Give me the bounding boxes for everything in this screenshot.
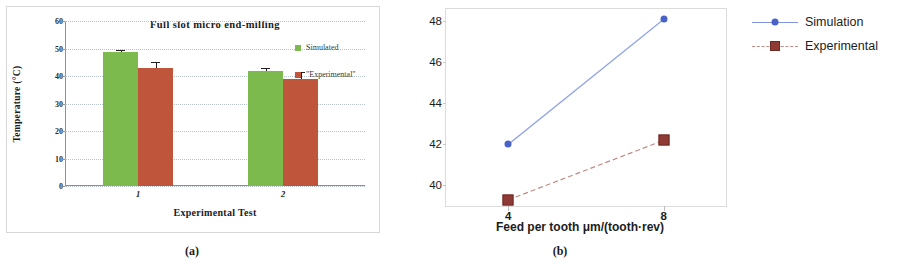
- panel-a-gridline: [65, 186, 365, 187]
- panel-b-data-point: [660, 16, 667, 23]
- panel-a-y-axis-label: Temperature (°C): [12, 44, 22, 164]
- panel-a-x-tick-label: 1: [136, 189, 140, 199]
- panel-b-x-axis-label: Feed per tooth μm/(tooth·rev): [400, 220, 760, 234]
- panel-a-legend-item: "Experimental": [295, 70, 375, 79]
- panel-b-y-tick-label: 48: [429, 15, 442, 27]
- panel-a-x-tick-label: 2: [281, 189, 285, 199]
- panel-a-x-axis-label: Experimental Test: [65, 207, 365, 218]
- panel-a-y-tick-mark: [61, 159, 65, 160]
- panel-a-legend-item: Simulated: [295, 43, 375, 52]
- panel-a-y-tick-mark: [61, 76, 65, 77]
- panel-b-legend-item: Simulation: [752, 10, 901, 34]
- panel-a-error-bar-cap: [151, 62, 160, 63]
- panel-a-error-bar-cap: [261, 68, 270, 69]
- panel-b-legend-label: Simulation: [805, 15, 863, 29]
- panel-b-x-tick-mark: [508, 206, 509, 211]
- panel-a-bar: [138, 68, 173, 186]
- panel-b-y-tick-label: 42: [429, 138, 442, 150]
- panel-b-x-tick-mark: [664, 206, 665, 211]
- panel-b-legend: SimulationExperimental: [752, 10, 901, 58]
- panel-a-y-tick-mark: [61, 131, 65, 132]
- caption-b: (b): [400, 244, 720, 259]
- panel-a-error-bar-cap: [116, 50, 125, 51]
- panel-b-legend-item: Experimental: [752, 34, 901, 58]
- panel-a-legend: Simulated"Experimental": [295, 43, 375, 97]
- panel-a-bar-chart: Full slot micro end-milling Temperature …: [6, 6, 380, 233]
- panel-b-plot-area: 4042444648 48: [445, 8, 727, 207]
- panel-a-legend-label: Simulated: [306, 43, 338, 52]
- panel-b-line-chart: 4042444648 48 Feed per tooth μm/(tooth·r…: [400, 0, 901, 271]
- legend-swatch-icon: [295, 72, 301, 78]
- legend-swatch-icon: [295, 45, 301, 51]
- panel-a-legend-label: "Experimental": [306, 70, 356, 79]
- panel-a-gridline: [65, 21, 365, 22]
- panel-b-series-lines: [446, 9, 726, 206]
- panel-b-data-point: [658, 135, 669, 146]
- panel-b-y-tick-label: 46: [429, 56, 442, 68]
- legend-line-icon: [752, 40, 798, 52]
- panel-b-y-tick-label: 40: [429, 179, 442, 191]
- panel-b-data-point: [503, 194, 514, 205]
- panel-b-legend-label: Experimental: [805, 39, 878, 53]
- panel-a-y-tick-mark: [61, 49, 65, 50]
- panel-a-y-tick-mark: [61, 186, 65, 187]
- caption-a: (a): [0, 244, 384, 259]
- panel-b-y-tick-label: 44: [429, 97, 442, 109]
- panel-a-bar: [103, 52, 138, 186]
- panel-a-y-tick-mark: [61, 104, 65, 105]
- panel-a-bar: [248, 71, 283, 186]
- panel-b-data-point: [505, 141, 512, 148]
- panel-a-y-tick-mark: [61, 21, 65, 22]
- figure-container: Full slot micro end-milling Temperature …: [0, 0, 901, 271]
- legend-line-icon: [752, 16, 798, 28]
